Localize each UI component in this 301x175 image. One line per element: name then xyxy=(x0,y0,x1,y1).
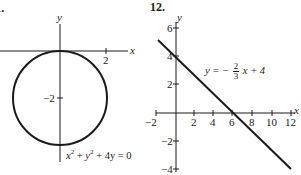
x-tick-label: −2 xyxy=(145,117,157,128)
y-axis-label-right: y xyxy=(177,12,182,23)
y-tick-label: −2 xyxy=(161,136,173,147)
y-tick-label-neg2-left: −2 xyxy=(43,93,55,104)
x-axis-label-right: x xyxy=(294,105,299,116)
graphs-canvas xyxy=(0,0,301,175)
line-equation-label: y = − 2 3 x + 4 xyxy=(205,62,265,81)
y-tick-label: 4 xyxy=(167,51,173,62)
x-tick-label: 2 xyxy=(191,117,197,128)
x-tick-label: 12 xyxy=(285,117,296,128)
y-axis-label-left: y xyxy=(57,12,62,23)
y-tick-label: −4 xyxy=(161,164,173,175)
x-axis-label-left: x xyxy=(130,45,135,56)
x-tick-label: 8 xyxy=(249,117,255,128)
circle-graph xyxy=(0,24,128,162)
x-tick-label: 4 xyxy=(210,117,216,128)
linear-function-line xyxy=(158,40,291,169)
line-graph xyxy=(156,22,295,172)
x-tick-label: 6 xyxy=(229,117,235,128)
y-tick-label: 6 xyxy=(167,23,173,34)
circle-equation-label: x2 + y2 + 4y = 0 xyxy=(66,148,132,161)
y-tick-label: 2 xyxy=(167,79,173,90)
x-tick-label: 10 xyxy=(266,117,277,128)
slope-fraction: 2 3 xyxy=(233,62,240,81)
x-tick-label-2-left: 2 xyxy=(103,55,109,66)
